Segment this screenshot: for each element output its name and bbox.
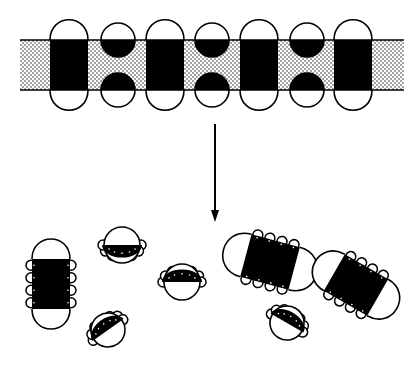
lipid-cylinder — [50, 20, 88, 111]
mixed-micelle-aggregates — [26, 223, 410, 358]
lipid-cylinder — [240, 20, 278, 111]
mixed-micelle-small — [79, 303, 136, 357]
membrane-solubilization-diagram — [0, 0, 414, 392]
diagram-canvas — [0, 0, 414, 392]
mixed-micelle-large — [216, 223, 323, 302]
lipid-cylinder — [334, 20, 372, 111]
mixed-micelle-small — [98, 227, 146, 263]
mixed-micelle-small — [259, 297, 316, 349]
down-arrow-icon — [211, 124, 219, 222]
mixed-micelle-large — [26, 239, 76, 329]
mixed-micelle-large — [302, 238, 410, 332]
mixed-micelle-small — [158, 264, 206, 300]
lipid-cylinder — [146, 20, 184, 111]
lipid-bilayer-membrane — [20, 20, 404, 111]
